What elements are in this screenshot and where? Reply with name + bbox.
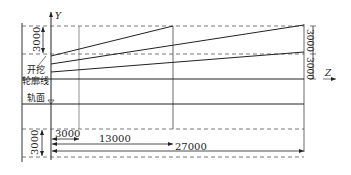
- excavation-line-2: [51, 25, 304, 64]
- excavation-diagram: 3000 开挖 轮廓线 轨面 Y 3000 3000 Z 3000 3000 1…: [0, 0, 351, 175]
- dim-left-bottom-label: 3000: [29, 130, 40, 155]
- excavation-label-1: 开挖: [27, 64, 45, 75]
- z-axis-label: Z: [324, 68, 332, 78]
- rail-surface-label: 轨面: [27, 92, 45, 103]
- dim-right-upper-label: 3000: [305, 29, 315, 52]
- excavation-label-2: 轮廓线: [22, 75, 49, 86]
- excavation-line-1: [51, 26, 173, 56]
- excavation-line-3: [51, 52, 304, 72]
- dim-27000-label: 27000: [175, 141, 207, 152]
- dim-3000-label: 3000: [55, 128, 80, 139]
- y-axis-label: Y: [55, 11, 62, 21]
- dim-13000-label: 13000: [99, 133, 131, 144]
- dim-left-top-label: 3000: [31, 27, 42, 52]
- dim-right-lower-label: 3000: [305, 57, 315, 80]
